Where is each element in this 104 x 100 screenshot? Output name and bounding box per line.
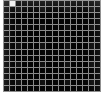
grid-cell	[10, 50, 15, 55]
grid-cell	[40, 74, 45, 79]
grid-cell	[95, 13, 100, 18]
grid-cell	[46, 68, 51, 73]
grid-cell	[83, 19, 88, 24]
grid-cell	[10, 31, 15, 36]
grid-cell	[71, 68, 76, 73]
grid-cell	[89, 31, 94, 36]
grid-cell	[16, 31, 21, 36]
grid-cell	[83, 74, 88, 79]
grid-cell	[22, 86, 27, 91]
grid-cell	[22, 19, 27, 24]
grid-cell	[34, 19, 39, 24]
grid-cell	[34, 31, 39, 36]
grid-cell	[95, 80, 100, 85]
grid-cell	[83, 13, 88, 18]
grid-cell	[28, 1, 33, 6]
grid-cell	[95, 1, 100, 6]
grid-cell	[4, 68, 9, 73]
grid-cell	[77, 62, 82, 67]
grid-cell	[16, 43, 21, 48]
grid-cell	[53, 43, 58, 48]
grid-cell	[10, 74, 15, 79]
grid-cell	[95, 25, 100, 30]
grid-cell	[65, 7, 70, 12]
grid-cell	[89, 7, 94, 12]
grid-cell	[65, 43, 70, 48]
grid-cell	[77, 37, 82, 42]
grid-cell	[59, 7, 64, 12]
grid-cell	[4, 62, 9, 67]
grid-cell	[95, 19, 100, 24]
grid-cell	[16, 13, 21, 18]
grid-cell	[34, 62, 39, 67]
grid-cell	[53, 1, 58, 6]
grid-cell	[71, 25, 76, 30]
grid-cell	[22, 43, 27, 48]
grid-cell	[71, 74, 76, 79]
grid-cell	[28, 68, 33, 73]
grid-cell	[22, 50, 27, 55]
grid-cell	[89, 25, 94, 30]
grid-cell	[95, 62, 100, 67]
grid-cell	[4, 56, 9, 61]
grid-cell	[53, 50, 58, 55]
grid-cell	[95, 37, 100, 42]
grid-cell	[46, 31, 51, 36]
grid-cell	[83, 31, 88, 36]
grid-cells-container	[3, 0, 101, 92]
grid-cell	[59, 86, 64, 91]
grid-cell	[53, 68, 58, 73]
grid-cell	[46, 37, 51, 42]
grid-cell	[53, 80, 58, 85]
grid-cell	[28, 80, 33, 85]
grid-cell	[89, 86, 94, 91]
figure-canvas	[0, 0, 104, 100]
grid-cell	[40, 25, 45, 30]
grid-cell	[22, 13, 27, 18]
grid-cell	[65, 80, 70, 85]
grid-cell	[16, 37, 21, 42]
grid-cell	[46, 19, 51, 24]
grid-cell	[46, 43, 51, 48]
grid-cell	[22, 68, 27, 73]
grid-cell	[59, 25, 64, 30]
grid-cell	[16, 50, 21, 55]
grid-cell	[16, 80, 21, 85]
grid-cell	[65, 56, 70, 61]
grid-cell	[40, 62, 45, 67]
grid-cell	[83, 56, 88, 61]
grid-cell	[10, 25, 15, 30]
grid-cell	[46, 74, 51, 79]
grid-cell	[10, 62, 15, 67]
grid-cell	[77, 19, 82, 24]
grid-cell	[77, 50, 82, 55]
grid-cell	[53, 25, 58, 30]
grid-cell	[77, 80, 82, 85]
grid-cell	[65, 37, 70, 42]
grid-cell	[10, 68, 15, 73]
grid-cell	[71, 31, 76, 36]
grid-cell	[28, 74, 33, 79]
grid-cell	[89, 13, 94, 18]
grid-cell	[40, 80, 45, 85]
grid-cell	[22, 74, 27, 79]
grid-cell	[22, 80, 27, 85]
grid-cell	[40, 31, 45, 36]
grid-cell	[28, 86, 33, 91]
grid-cell	[83, 7, 88, 12]
grid-cell	[22, 25, 27, 30]
grid-cell	[34, 86, 39, 91]
grid-cell	[46, 13, 51, 18]
grid-cell	[4, 86, 9, 91]
grid-cell	[4, 13, 9, 18]
grid-cell	[59, 68, 64, 73]
grid-cell	[4, 43, 9, 48]
grid-cell	[4, 50, 9, 55]
grid-cell	[40, 86, 45, 91]
grid-cell	[28, 62, 33, 67]
grid-cell	[77, 86, 82, 91]
grid-cell	[4, 74, 9, 79]
grid-cell	[34, 25, 39, 30]
grid-cell	[16, 25, 21, 30]
grid-cell	[16, 68, 21, 73]
